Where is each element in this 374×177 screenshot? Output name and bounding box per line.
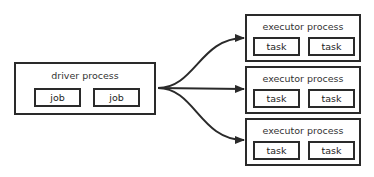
task-box-1-1: task [253,37,300,56]
executor-process-box-3: executor process task task [245,118,361,166]
executor-process-box-2: executor process task task [245,66,361,114]
executor-process-box-1: executor process task task [245,14,361,62]
driver-process-box: driver process job job [14,62,156,115]
arrow-to-executor-3 [158,88,244,140]
task-box-3-1: task [253,141,300,160]
executor-process-title-2: executor process [247,73,359,84]
task-box-3-2: task [308,141,355,160]
task-box-2-1: task [253,89,300,108]
arrow-to-executor-2 [158,88,244,89]
arrow-to-executor-1 [158,38,244,88]
task-box-1-2: task [308,37,355,56]
job-box-1: job [34,88,81,107]
executor-process-title-1: executor process [247,21,359,32]
task-box-2-2: task [308,89,355,108]
driver-process-title: driver process [16,70,154,81]
executor-process-title-3: executor process [247,125,359,136]
job-box-2: job [93,88,140,107]
